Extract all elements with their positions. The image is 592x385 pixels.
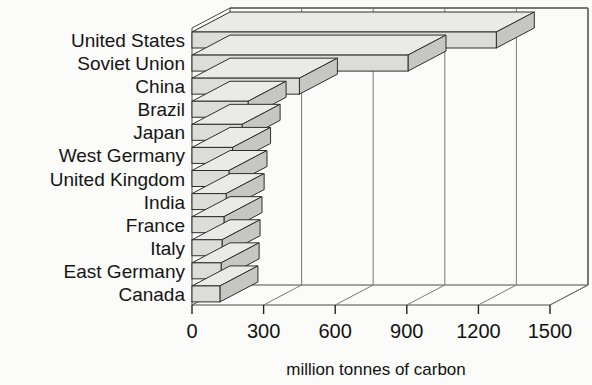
bar-top-face bbox=[192, 35, 446, 55]
category-label: East Germany bbox=[64, 261, 186, 282]
category-label: Brazil bbox=[137, 99, 185, 120]
bar-top-face bbox=[192, 12, 534, 32]
chart-container: United StatesSoviet UnionChinaBrazilJapa… bbox=[0, 0, 592, 385]
x-axis-ticks bbox=[192, 305, 550, 314]
x-tick-label: 1500 bbox=[528, 320, 573, 342]
category-label: United Kingdom bbox=[50, 169, 185, 190]
bars-group bbox=[192, 12, 534, 302]
bar-front-face bbox=[192, 286, 220, 302]
category-label: Canada bbox=[118, 284, 185, 305]
x-axis-title: million tonnes of carbon bbox=[286, 360, 466, 379]
category-label: Japan bbox=[133, 122, 185, 143]
x-axis-tick-labels: 030060090012001500 bbox=[186, 320, 572, 342]
x-tick-label: 900 bbox=[390, 320, 423, 342]
category-label: Italy bbox=[150, 238, 185, 259]
category-label: China bbox=[135, 76, 185, 97]
grid-depth-connector bbox=[335, 285, 373, 305]
bar-chart-3d: United StatesSoviet UnionChinaBrazilJapa… bbox=[0, 0, 592, 385]
grid-depth-connector bbox=[264, 285, 302, 305]
grid-depth-connector bbox=[550, 285, 588, 305]
grid-depth-connector bbox=[407, 285, 445, 305]
x-tick-label: 0 bbox=[186, 320, 197, 342]
x-tick-label: 1200 bbox=[456, 320, 501, 342]
x-tick-label: 600 bbox=[319, 320, 352, 342]
x-tick-label: 300 bbox=[247, 320, 280, 342]
category-label: West Germany bbox=[59, 145, 186, 166]
category-label: Soviet Union bbox=[77, 53, 185, 74]
category-label: France bbox=[126, 215, 185, 236]
category-label: India bbox=[144, 192, 186, 213]
category-labels: United StatesSoviet UnionChinaBrazilJapa… bbox=[50, 30, 186, 305]
category-label: United States bbox=[71, 30, 185, 51]
grid-depth-connector bbox=[478, 285, 516, 305]
